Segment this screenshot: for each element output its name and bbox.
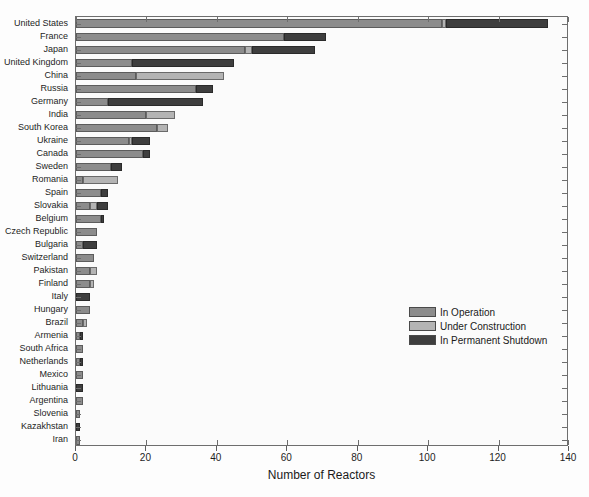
x-tick-mark (498, 446, 499, 451)
bar-segment (446, 19, 548, 27)
bar-row (76, 176, 567, 184)
frame-tick-left (76, 258, 81, 259)
bar-segment (245, 46, 252, 54)
frame-tick-right (562, 284, 567, 285)
frame-tick-right (562, 258, 567, 259)
y-axis-label: Brazil (0, 317, 71, 327)
bar-row (76, 358, 567, 366)
frame-tick-right (562, 167, 567, 168)
bar-row (76, 215, 567, 223)
y-axis-label: Netherlands (0, 356, 71, 366)
frame-tick-left (76, 37, 81, 38)
y-axis-label: Italy (0, 291, 71, 301)
x-tick-mark (568, 446, 569, 451)
frame-tick-bottom (568, 440, 569, 445)
plot-area (75, 16, 568, 446)
y-axis-label: Germany (0, 96, 71, 106)
frame-tick-right (562, 414, 567, 415)
frame-tick-right (562, 336, 567, 337)
frame-tick-right (562, 63, 567, 64)
y-axis-label: Kazakhstan (0, 421, 71, 431)
y-axis-label: Switzerland (0, 252, 71, 262)
frame-tick-left (76, 401, 81, 402)
x-tick-mark (427, 446, 428, 451)
bar-row (76, 202, 567, 210)
x-tick-mark (75, 446, 76, 451)
x-tick-label: 60 (281, 452, 292, 463)
bar-segment (76, 33, 284, 41)
bar-segment (76, 163, 111, 171)
y-axis-label: Mexico (0, 369, 71, 379)
bar-row (76, 85, 567, 93)
frame-tick-right (562, 115, 567, 116)
stacked-bar (76, 72, 224, 80)
chart-root: United StatesFranceJapanUnited KingdomCh… (0, 0, 589, 497)
legend-item[interactable]: Under Construction (409, 320, 547, 332)
frame-tick-top (146, 17, 147, 22)
frame-tick-left (76, 128, 81, 129)
stacked-bar (76, 98, 203, 106)
bar-segment (252, 46, 315, 54)
bar-segment (83, 319, 87, 327)
stacked-bar (76, 150, 150, 158)
frame-tick-right (562, 440, 567, 441)
frame-tick-left (76, 297, 81, 298)
bar-segment (97, 202, 108, 210)
frame-tick-left (76, 440, 81, 441)
frame-tick-right (562, 271, 567, 272)
frame-tick-right (562, 401, 567, 402)
bar-segment (284, 33, 326, 41)
x-tick-label: 120 (489, 452, 506, 463)
frame-tick-left (76, 349, 81, 350)
frame-tick-right (562, 50, 567, 51)
bar-segment (143, 150, 150, 158)
frame-tick-left (76, 388, 81, 389)
x-tick-mark (145, 446, 146, 451)
bar-segment (83, 241, 97, 249)
legend-item[interactable]: In Operation (409, 306, 547, 318)
bar-row (76, 19, 567, 27)
bar-row (76, 241, 567, 249)
frame-tick-left (76, 89, 81, 90)
frame-tick-left (76, 180, 81, 181)
frame-tick-right (562, 37, 567, 38)
bar-segment (90, 267, 97, 275)
bar-row (76, 267, 567, 275)
frame-tick-left (76, 323, 81, 324)
frame-tick-top (568, 17, 569, 22)
frame-tick-right (562, 427, 567, 428)
frame-tick-top (428, 17, 429, 22)
y-axis-label: United Kingdom (0, 57, 71, 67)
bar-segment (196, 85, 214, 93)
stacked-bar (76, 176, 118, 184)
frame-tick-right (562, 193, 567, 194)
frame-tick-left (76, 193, 81, 194)
bar-row (76, 46, 567, 54)
frame-tick-right (562, 180, 567, 181)
legend-swatch-icon (409, 307, 436, 317)
y-axis-label: Canada (0, 148, 71, 158)
frame-tick-left (76, 284, 81, 285)
bar-row (76, 384, 567, 392)
bar-row (76, 371, 567, 379)
y-axis-label: Sweden (0, 161, 71, 171)
frame-tick-left (76, 167, 81, 168)
stacked-bar (76, 59, 234, 67)
frame-tick-left (76, 375, 81, 376)
frame-tick-top (287, 17, 288, 22)
bar-row (76, 410, 567, 418)
x-axis-ticks: 020406080100120140 (75, 446, 568, 462)
stacked-bar (76, 124, 168, 132)
y-axis-label: Bulgaria (0, 239, 71, 249)
bar-row (76, 150, 567, 158)
frame-tick-bottom (428, 440, 429, 445)
legend-swatch-icon (409, 335, 436, 345)
stacked-bar (76, 33, 326, 41)
bar-segment (76, 46, 245, 54)
legend-item[interactable]: In Permanent Shutdown (409, 334, 547, 346)
bar-row (76, 33, 567, 41)
legend-swatch-icon (409, 321, 436, 331)
bar-row (76, 59, 567, 67)
y-axis-label: Pakistan (0, 265, 71, 275)
frame-tick-right (562, 388, 567, 389)
